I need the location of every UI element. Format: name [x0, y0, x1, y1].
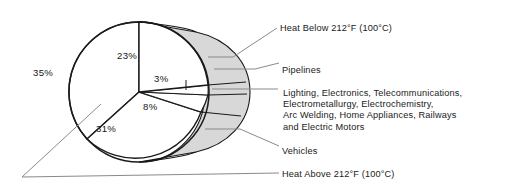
callout-multi-line-3: Arc Welding, Home Appliances, Railways: [283, 110, 462, 121]
callout-label-vehicles: Vehicles: [282, 146, 317, 157]
pie-value-label-3: 3%: [154, 73, 168, 84]
callout-label-heat-below: Heat Below 212°F (100°C): [280, 23, 392, 34]
callout-label-heat-above: Heat Above 212°F (100°C): [282, 169, 395, 180]
callout-label-multi: Lighting, Electronics, Telecommunication…: [283, 88, 462, 133]
leader-heat-above-baseline: [22, 173, 279, 177]
callout-label-pipelines: Pipelines: [282, 65, 321, 76]
pie-value-label-23: 23%: [117, 50, 137, 61]
pie-value-label-35: 35%: [33, 67, 53, 78]
pie-value-label-8: 8%: [143, 101, 157, 112]
callout-multi-line-4: and Electric Motors: [283, 122, 462, 133]
pie-value-label-31: 31%: [96, 123, 116, 134]
callout-multi-line-2: Electrometallurgy, Electrochemistry,: [283, 99, 462, 110]
callout-multi-line-1: Lighting, Electronics, Telecommunication…: [283, 88, 462, 99]
